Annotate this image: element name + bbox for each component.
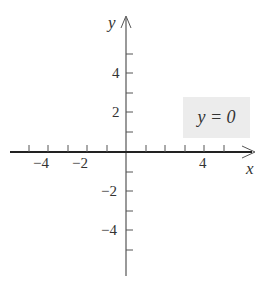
equation-label: y = 0 [183,97,250,138]
x-tick-label-4: 4 [199,156,207,171]
x-axis-label: x [246,160,254,177]
x-tick-label-neg2: −2 [72,156,88,171]
y-axis-label: y [108,14,116,31]
y-tick-label-neg2: −2 [101,184,117,199]
x-tick-label-neg4: −4 [33,156,49,171]
y-tick-label-neg4: −4 [101,223,117,238]
y-tick-label-2: 2 [112,105,120,120]
y-tick-label-4: 4 [112,66,120,81]
axes-plot [0,0,269,284]
